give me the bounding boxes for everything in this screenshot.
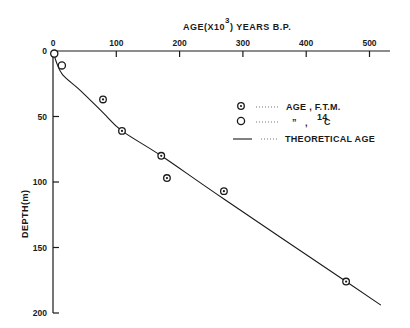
x-tick-label: 200 (173, 38, 187, 48)
svg-text:THEORETICAL AGE: THEORETICAL AGE (285, 134, 375, 144)
x-axis-ticks: 0100200300400500 (51, 38, 377, 57)
x-axis-title: AGE(X103) YEARS B.P. (183, 16, 291, 32)
svg-text:C: C (324, 117, 331, 127)
svg-text:”: ” (292, 117, 297, 127)
y-tick-label: 200 (33, 308, 47, 318)
depth-age-chart: AGE(X103) YEARS B.P. DEPTH(m) 0100200300… (0, 0, 410, 328)
theoretical-age-line (53, 51, 381, 305)
svg-text:,: , (305, 118, 308, 128)
legend: AGE , F.T.M. ” , 14 C THEORETICAL AGE (233, 102, 375, 144)
legend-item-ftm: AGE , F.T.M. (238, 102, 341, 112)
x-tick-label: 100 (109, 38, 123, 48)
legend-item-14c: ” , 14 C (237, 112, 331, 128)
x-tick-label: 400 (299, 38, 313, 48)
y-axis-ticks: 050100150200 (33, 46, 59, 318)
y-tick-label: 150 (33, 243, 47, 253)
y-tick-label: 0 (42, 46, 47, 56)
svg-text:AGE , F.T.M.: AGE , F.T.M. (286, 102, 341, 112)
x-tick-label: 0 (51, 38, 56, 48)
y-tick-label: 50 (38, 112, 48, 122)
data-points (51, 50, 350, 285)
c14-age-point (51, 50, 58, 57)
legend-item-theoretical: THEORETICAL AGE (233, 134, 375, 144)
c14-age-point (58, 62, 65, 69)
x-tick-label: 500 (362, 38, 376, 48)
open-circle-icon (237, 117, 244, 124)
y-axis-title: DEPTH(m) (20, 190, 30, 239)
x-tick-label: 300 (236, 38, 250, 48)
y-tick-label: 100 (33, 177, 47, 187)
